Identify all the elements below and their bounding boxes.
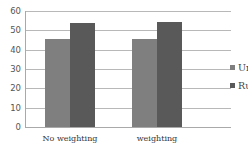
bar-urban-0 (45, 39, 70, 127)
rural-swatch-icon (230, 83, 235, 88)
x-tick-label: weighting (117, 134, 197, 143)
legend-label: Rural (238, 80, 248, 91)
legend-label: Urban (238, 62, 248, 73)
y-tick-label: 10 (0, 103, 21, 113)
legend-item-urban: Urban (230, 62, 248, 73)
y-tick-label: 20 (0, 83, 21, 93)
gridline (25, 11, 231, 12)
x-axis-line (25, 127, 231, 128)
x-tick-label: No weighting (30, 134, 110, 143)
y-tick-label: 60 (0, 6, 21, 16)
y-tick-label: 30 (0, 64, 21, 74)
legend-item-rural: Rural (230, 80, 248, 91)
bar-urban-1 (132, 39, 157, 127)
bar-chart: 0102030405060 No weightingweighting Urba… (0, 0, 248, 155)
y-tick-label: 50 (0, 25, 21, 35)
gridline (25, 30, 231, 31)
bar-rural-1 (157, 22, 182, 127)
bar-rural-0 (70, 23, 95, 127)
y-tick-label: 40 (0, 45, 21, 55)
y-tick-label: 0 (0, 122, 21, 132)
y-axis-line (25, 11, 26, 128)
urban-swatch-icon (230, 65, 235, 70)
